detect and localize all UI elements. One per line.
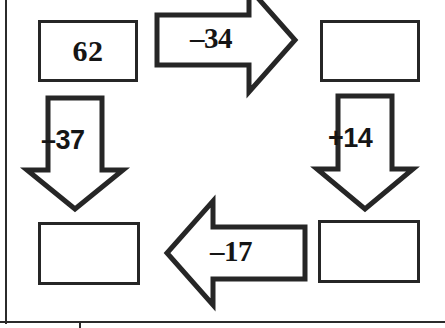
arrow-right-label: –34 [190,24,232,53]
bottom-tick-rule [79,323,81,328]
value-box-start-label: 62 [73,36,104,66]
value-box-top-right[interactable] [320,20,420,82]
arrow-down-minus37[interactable]: –37 [24,95,126,212]
arrow-down-right-label: +14 [328,125,372,152]
value-box-start[interactable]: 62 [38,20,138,82]
value-box-bottom-right[interactable] [318,220,420,283]
arrow-left-minus17[interactable]: –17 [163,198,308,308]
arrow-down-left-label: –37 [41,127,85,154]
left-margin-rule [5,0,7,324]
arrow-down-plus14[interactable]: +14 [314,93,416,212]
arrow-right-minus34[interactable]: –34 [154,0,298,96]
value-box-bottom-left[interactable] [38,222,140,285]
arrow-left-label: –17 [210,237,252,266]
worksheet-diagram: 62 –34 –37 +14 –17 [0,0,445,328]
bottom-rule [0,321,445,323]
